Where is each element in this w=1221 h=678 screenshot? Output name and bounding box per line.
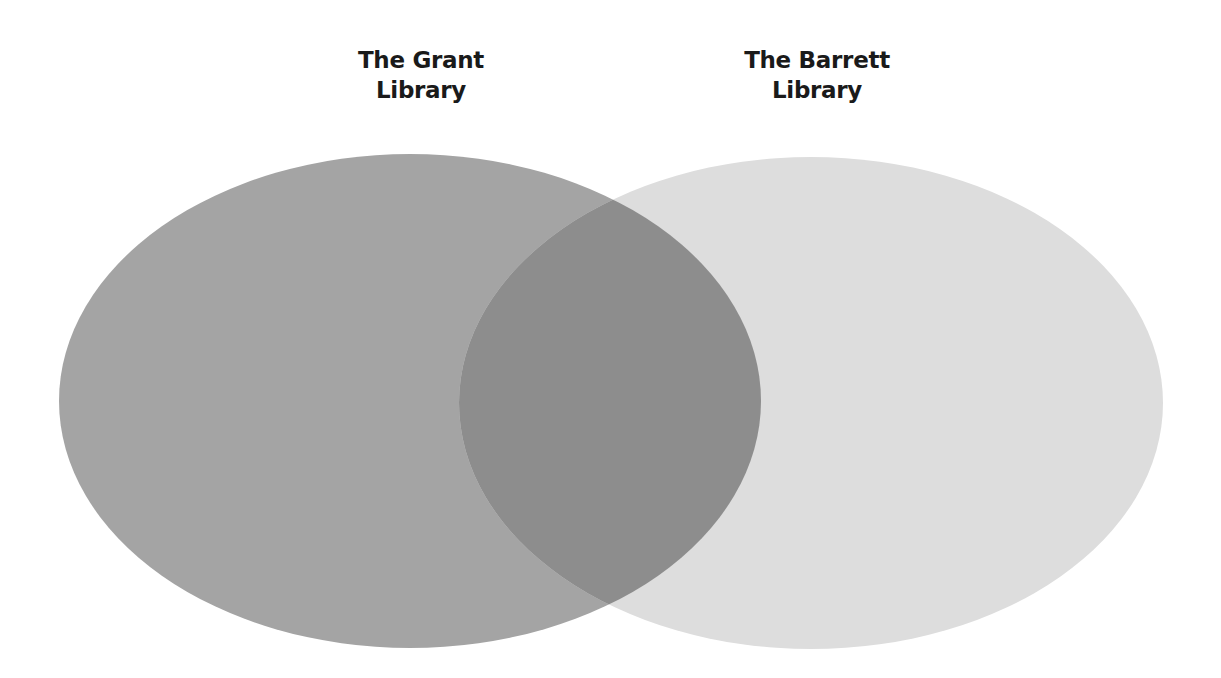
barrett-library-label-line1: The Barrett: [687, 45, 947, 75]
barrett-library-label: The Barrett Library: [687, 45, 947, 105]
barrett-library-label-line2: Library: [687, 75, 947, 105]
grant-library-label: The Grant Library: [291, 45, 551, 105]
venn-diagram: [0, 0, 1221, 678]
grant-library-label-line1: The Grant: [291, 45, 551, 75]
grant-library-label-line2: Library: [291, 75, 551, 105]
